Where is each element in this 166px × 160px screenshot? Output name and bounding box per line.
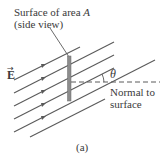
normal-label-line2: surface — [110, 98, 142, 110]
arrowhead-icon — [41, 77, 46, 81]
field-line — [14, 55, 114, 106]
arrowhead-icon — [41, 90, 46, 94]
normal-label-line1: Normal to — [110, 86, 155, 98]
surface-bar — [68, 56, 72, 101]
arrowhead-icon — [41, 64, 46, 68]
leader-line — [50, 28, 69, 57]
field-symbol: E — [7, 68, 15, 83]
angle-label: θ — [110, 68, 116, 80]
field-arrowheads — [41, 64, 46, 120]
arrowhead-icon — [41, 116, 46, 120]
arrowhead-icon — [41, 103, 46, 107]
surface-label-line2: (side view) — [14, 18, 63, 30]
figure-caption: (a) — [76, 141, 88, 153]
field-line — [14, 68, 114, 119]
angle-arc — [102, 74, 104, 82]
electric-flux-diagram: Surface of area A (side view) → E θ Norm… — [0, 0, 166, 160]
surface-label-prefix: Surface of area — [14, 6, 83, 18]
surface-label-line1: Surface of area A — [14, 6, 90, 18]
area-variable: A — [83, 6, 90, 18]
